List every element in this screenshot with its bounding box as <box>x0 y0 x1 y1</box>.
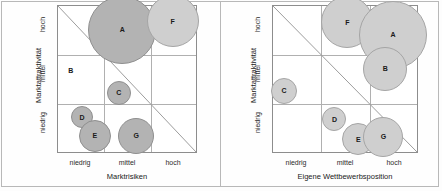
figure-container: AFBCDEG hoch mittel niedrig Marktattrakt… <box>0 0 442 191</box>
xtick-label-niedrig: niedrig <box>274 159 318 166</box>
bubble-label: F <box>170 18 174 25</box>
bubble-label: C <box>282 87 287 94</box>
bubble-label: B <box>68 67 73 74</box>
bubble-f[interactable]: F <box>147 0 199 47</box>
yaxis-title-right: Marktattraktivität <box>249 16 258 136</box>
xaxis-title-left: Marktrisiken <box>57 172 197 181</box>
xtick-label-hoch: hoch <box>151 159 195 166</box>
plot-area-right[interactable]: FABCDEG <box>272 5 418 153</box>
xaxis-title-right: Eigene Wettbewerbsposition <box>262 172 428 181</box>
gridline-horizontal <box>58 104 196 105</box>
bubble-g[interactable]: G <box>363 117 403 157</box>
panel-left: AFBCDEG hoch mittel niedrig Marktattrakt… <box>0 0 221 191</box>
bubble-label: D <box>332 116 337 123</box>
bubble-label: B <box>383 65 388 72</box>
xtick-label-hoch: hoch <box>372 159 416 166</box>
bubble-e[interactable]: E <box>79 120 111 152</box>
bubble-label: E <box>356 136 361 143</box>
bubble-label: G <box>133 132 138 139</box>
bubble-d[interactable]: D <box>322 107 346 131</box>
bubble-label: E <box>92 132 97 139</box>
bubble-label: A <box>390 31 395 38</box>
bubble-b[interactable]: B <box>66 66 76 76</box>
xtick-label-mittel: mittel <box>323 159 367 166</box>
bubble-label: G <box>381 133 386 140</box>
bubble-c[interactable]: C <box>271 78 297 104</box>
bubble-label: D <box>79 114 84 121</box>
bubble-g[interactable]: G <box>118 118 154 154</box>
xtick-label-mittel: mittel <box>105 159 149 166</box>
bubble-b[interactable]: B <box>363 47 407 91</box>
bubble-label: A <box>120 26 125 33</box>
gridline-horizontal <box>273 104 417 105</box>
yaxis-title-left: Marktattraktivität <box>34 16 43 136</box>
plot-area-left[interactable]: AFBCDEG <box>57 5 197 153</box>
xtick-label-niedrig: niedrig <box>58 159 102 166</box>
panel-right: FABCDEG hoch mittel niedrig Marktattrakt… <box>221 0 442 191</box>
bubble-label: F <box>345 19 349 26</box>
bubble-label: C <box>116 89 121 96</box>
bubble-c[interactable]: C <box>107 81 131 105</box>
